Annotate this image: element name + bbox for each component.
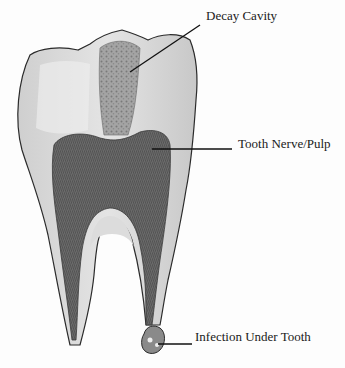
infection-under-tooth-label: Infection Under Tooth [195,330,311,343]
enamel-highlight [36,61,90,133]
decay-cavity-label: Decay Cavity [206,9,277,22]
tooth-nerve-pulp-label: Tooth Nerve/Pulp [238,137,331,150]
infection-abscess [142,326,165,353]
tooth-diagram: Decay Cavity Tooth Nerve/Pulp Infection … [0,0,345,368]
tooth-illustration [0,0,345,368]
pulp-chamber [52,131,170,340]
